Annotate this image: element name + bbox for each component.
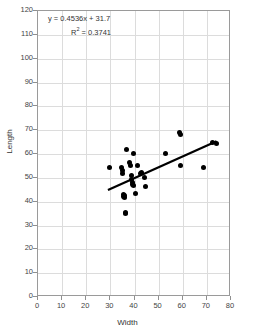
- data-point: [214, 141, 219, 146]
- gridline-horizontal: [38, 202, 229, 203]
- y-tick-label: 80: [0, 101, 33, 109]
- gridline-vertical: [159, 11, 160, 295]
- y-tick-label: 120: [0, 6, 33, 14]
- gridline-horizontal: [38, 273, 229, 274]
- x-tick-mark: [85, 296, 86, 300]
- gridline-horizontal: [38, 59, 229, 60]
- data-point: [123, 211, 128, 216]
- y-tick-label: 90: [0, 78, 33, 86]
- y-tick-label: 10: [0, 268, 33, 276]
- gridline-vertical: [62, 11, 63, 295]
- gridline-horizontal: [38, 130, 229, 131]
- data-point: [107, 165, 112, 170]
- y-tick-label: 40: [0, 197, 33, 205]
- y-tick-mark: [33, 82, 37, 83]
- gridline-vertical: [183, 11, 184, 295]
- y-tick-mark: [33, 201, 37, 202]
- data-point: [178, 132, 183, 137]
- data-point: [135, 163, 140, 168]
- y-tick-mark: [33, 177, 37, 178]
- r-squared-value: = 0.3741: [82, 28, 111, 37]
- y-tick-label: 20: [0, 244, 33, 252]
- y-tick-mark: [33, 225, 37, 226]
- gridline-horizontal: [38, 226, 229, 227]
- gridline-horizontal: [38, 83, 229, 84]
- regression-annotation: y = 0.4536x + 31.7 R2 = 0.3741: [48, 13, 134, 38]
- y-tick-mark: [33, 272, 37, 273]
- data-point: [120, 171, 125, 176]
- y-tick-mark: [33, 10, 37, 11]
- x-axis-title: Width: [0, 318, 255, 327]
- data-point: [163, 151, 168, 156]
- gridline-vertical: [86, 11, 87, 295]
- y-tick-mark: [33, 248, 37, 249]
- y-tick-label: 0: [0, 292, 33, 300]
- scatter-chart: 0102030405060708090100110120 01020304050…: [0, 0, 255, 336]
- y-tick-mark: [33, 153, 37, 154]
- x-tick-mark: [230, 296, 231, 300]
- r-squared-exponent: 2: [76, 26, 79, 32]
- r-squared-text: R2 = 0.3741: [48, 24, 134, 38]
- x-tick-mark: [37, 296, 38, 300]
- x-tick-label: 80: [215, 302, 245, 310]
- x-tick-mark: [206, 296, 207, 300]
- y-tick-label: 110: [0, 30, 33, 38]
- data-point: [143, 184, 148, 189]
- x-tick-mark: [134, 296, 135, 300]
- y-tick-mark: [33, 58, 37, 59]
- y-axis-title: Length: [5, 112, 14, 172]
- x-tick-mark: [109, 296, 110, 300]
- data-point: [133, 191, 138, 196]
- regression-equation: y = 0.4536x + 31.7: [48, 13, 134, 24]
- data-point: [201, 165, 206, 170]
- x-tick-mark: [61, 296, 62, 300]
- gridline-horizontal: [38, 249, 229, 250]
- y-tick-label: 30: [0, 221, 33, 229]
- gridline-vertical: [110, 11, 111, 295]
- data-point: [128, 163, 133, 168]
- plot-area: [37, 10, 230, 296]
- y-tick-mark: [33, 129, 37, 130]
- gridline-horizontal: [38, 106, 229, 107]
- data-point: [142, 175, 147, 180]
- y-tick-label: 50: [0, 173, 33, 181]
- y-tick-mark: [33, 105, 37, 106]
- data-point: [124, 147, 129, 152]
- x-tick-mark: [182, 296, 183, 300]
- x-tick-mark: [158, 296, 159, 300]
- y-tick-mark: [33, 34, 37, 35]
- gridline-vertical: [207, 11, 208, 295]
- y-tick-label: 100: [0, 54, 33, 62]
